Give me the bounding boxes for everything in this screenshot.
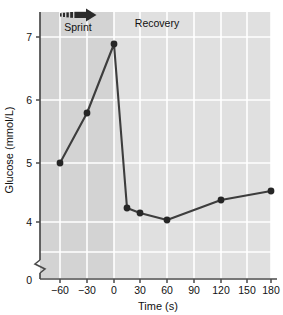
data-point [218,197,225,204]
chart-canvas: 7 6 5 4 0 −60 −30 0 30 60 90 120 150 180… [0,0,283,315]
x-tick-label-minus60: −60 [51,284,69,296]
data-point [84,110,91,117]
x-tick-label-60: 60 [161,284,173,296]
x-tick-label-150: 150 [238,284,256,296]
data-point [111,41,118,48]
y-tick-label-5: 5 [26,157,32,169]
data-point [164,217,171,224]
x-tick-label-90: 90 [188,284,200,296]
data-point [268,188,275,195]
x-axis-title: Time (s) [138,300,178,312]
sprint-label: Sprint [64,21,92,33]
x-tick-label-180: 180 [262,284,280,296]
y-tick-label-0: 0 [26,274,32,286]
x-tick-label-0: 0 [111,284,117,296]
data-point [57,160,64,167]
sprint-shaded-band [40,12,114,278]
y-axis-title: Glucose (mmol/L) [3,107,15,194]
data-point [124,205,131,212]
x-tick-label-30: 30 [134,284,146,296]
y-tick-label-4: 4 [26,216,32,228]
recovery-label: Recovery [135,17,180,29]
x-tick-label-120: 120 [212,284,230,296]
y-tick-label-7: 7 [26,31,32,43]
y-tick-label-6: 6 [26,94,32,106]
glucose-time-chart-figure: 7 6 5 4 0 −60 −30 0 30 60 90 120 150 180… [0,0,283,315]
data-point [137,210,144,217]
x-tick-label-minus30: −30 [78,284,96,296]
